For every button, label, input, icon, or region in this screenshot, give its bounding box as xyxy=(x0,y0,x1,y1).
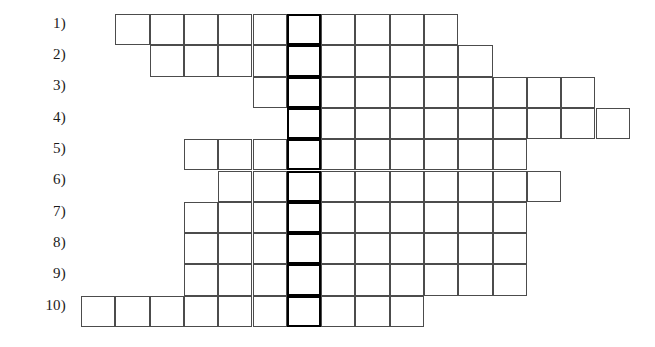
grid-cell-r9-c10[interactable] xyxy=(424,264,458,295)
grid-cell-r8-c11[interactable] xyxy=(458,233,492,264)
grid-cell-r6-c7[interactable] xyxy=(321,171,355,202)
grid-cell-r10-c8[interactable] xyxy=(355,296,389,327)
keyword-cell-r9[interactable] xyxy=(287,264,321,295)
grid-cell-r5-c8[interactable] xyxy=(355,139,389,170)
grid-cell-r1-c9[interactable] xyxy=(390,14,424,45)
grid-cell-r6-c4[interactable] xyxy=(218,171,252,202)
keyword-cell-r2[interactable] xyxy=(287,45,321,76)
keyword-cell-r8[interactable] xyxy=(287,233,321,264)
grid-cell-r4-c11[interactable] xyxy=(458,108,492,139)
grid-cell-r9-c5[interactable] xyxy=(253,264,287,295)
grid-cell-r6-c13[interactable] xyxy=(527,171,561,202)
keyword-cell-r3[interactable] xyxy=(287,77,321,108)
grid-cell-r7-c12[interactable] xyxy=(493,202,527,233)
grid-cell-r6-c5[interactable] xyxy=(253,171,287,202)
grid-cell-r2-c4[interactable] xyxy=(218,45,252,76)
grid-cell-r1-c8[interactable] xyxy=(355,14,389,45)
grid-cell-r3-c5[interactable] xyxy=(253,77,287,108)
grid-cell-r7-c5[interactable] xyxy=(253,202,287,233)
grid-cell-r7-c9[interactable] xyxy=(390,202,424,233)
grid-cell-r3-c10[interactable] xyxy=(424,77,458,108)
grid-cell-r6-c9[interactable] xyxy=(390,171,424,202)
grid-cell-r4-c14[interactable] xyxy=(561,108,595,139)
keyword-cell-r6[interactable] xyxy=(287,171,321,202)
grid-cell-r2-c11[interactable] xyxy=(458,45,492,76)
grid-cell-r5-c11[interactable] xyxy=(458,139,492,170)
grid-cell-r2-c5[interactable] xyxy=(253,45,287,76)
grid-cell-r4-c8[interactable] xyxy=(355,108,389,139)
grid-cell-r5-c9[interactable] xyxy=(390,139,424,170)
grid-cell-r1-c1[interactable] xyxy=(115,14,149,45)
grid-cell-r10-c0[interactable] xyxy=(81,296,115,327)
grid-cell-r2-c10[interactable] xyxy=(424,45,458,76)
grid-cell-r8-c8[interactable] xyxy=(355,233,389,264)
grid-cell-r5-c3[interactable] xyxy=(184,139,218,170)
grid-cell-r7-c3[interactable] xyxy=(184,202,218,233)
grid-cell-r6-c12[interactable] xyxy=(493,171,527,202)
grid-cell-r2-c3[interactable] xyxy=(184,45,218,76)
grid-cell-r2-c7[interactable] xyxy=(321,45,355,76)
grid-cell-r7-c7[interactable] xyxy=(321,202,355,233)
grid-cell-r10-c5[interactable] xyxy=(253,296,287,327)
grid-cell-r1-c7[interactable] xyxy=(321,14,355,45)
grid-cell-r10-c9[interactable] xyxy=(390,296,424,327)
grid-cell-r10-c1[interactable] xyxy=(115,296,149,327)
grid-cell-r8-c12[interactable] xyxy=(493,233,527,264)
grid-cell-r4-c9[interactable] xyxy=(390,108,424,139)
grid-cell-r4-c10[interactable] xyxy=(424,108,458,139)
grid-cell-r9-c3[interactable] xyxy=(184,264,218,295)
grid-cell-r6-c8[interactable] xyxy=(355,171,389,202)
grid-cell-r8-c10[interactable] xyxy=(424,233,458,264)
grid-cell-r3-c9[interactable] xyxy=(390,77,424,108)
grid-cell-r6-c11[interactable] xyxy=(458,171,492,202)
grid-cell-r3-c12[interactable] xyxy=(493,77,527,108)
grid-cell-r10-c4[interactable] xyxy=(218,296,252,327)
grid-cell-r6-c10[interactable] xyxy=(424,171,458,202)
grid-cell-r9-c9[interactable] xyxy=(390,264,424,295)
grid-cell-r2-c2[interactable] xyxy=(150,45,184,76)
grid-cell-r7-c11[interactable] xyxy=(458,202,492,233)
grid-cell-r5-c4[interactable] xyxy=(218,139,252,170)
keyword-cell-r5[interactable] xyxy=(287,139,321,170)
grid-cell-r3-c13[interactable] xyxy=(527,77,561,108)
grid-cell-r8-c4[interactable] xyxy=(218,233,252,264)
grid-cell-r4-c12[interactable] xyxy=(493,108,527,139)
grid-cell-r4-c15[interactable] xyxy=(596,108,630,139)
grid-cell-r8-c9[interactable] xyxy=(390,233,424,264)
grid-cell-r9-c4[interactable] xyxy=(218,264,252,295)
grid-cell-r3-c14[interactable] xyxy=(561,77,595,108)
grid-cell-r9-c12[interactable] xyxy=(493,264,527,295)
grid-cell-r5-c7[interactable] xyxy=(321,139,355,170)
grid-cell-r10-c7[interactable] xyxy=(321,296,355,327)
grid-cell-r1-c4[interactable] xyxy=(218,14,252,45)
grid-cell-r4-c13[interactable] xyxy=(527,108,561,139)
grid-cell-r3-c11[interactable] xyxy=(458,77,492,108)
grid-cell-r5-c10[interactable] xyxy=(424,139,458,170)
grid-cell-r2-c9[interactable] xyxy=(390,45,424,76)
grid-cell-r9-c7[interactable] xyxy=(321,264,355,295)
grid-cell-r8-c7[interactable] xyxy=(321,233,355,264)
grid-cell-r10-c3[interactable] xyxy=(184,296,218,327)
grid-cell-r8-c5[interactable] xyxy=(253,233,287,264)
grid-cell-r7-c4[interactable] xyxy=(218,202,252,233)
grid-cell-r10-c2[interactable] xyxy=(150,296,184,327)
grid-cell-r5-c12[interactable] xyxy=(493,139,527,170)
keyword-cell-r10[interactable] xyxy=(287,296,321,327)
grid-cell-r1-c10[interactable] xyxy=(424,14,458,45)
grid-cell-r2-c8[interactable] xyxy=(355,45,389,76)
grid-cell-r1-c3[interactable] xyxy=(184,14,218,45)
grid-cell-r1-c2[interactable] xyxy=(150,14,184,45)
keyword-cell-r7[interactable] xyxy=(287,202,321,233)
grid-cell-r5-c5[interactable] xyxy=(253,139,287,170)
grid-cell-r9-c11[interactable] xyxy=(458,264,492,295)
keyword-cell-r4[interactable] xyxy=(287,108,321,139)
grid-cell-r4-c7[interactable] xyxy=(321,108,355,139)
grid-cell-r7-c10[interactable] xyxy=(424,202,458,233)
grid-cell-r1-c5[interactable] xyxy=(253,14,287,45)
grid-cell-r3-c7[interactable] xyxy=(321,77,355,108)
grid-cell-r7-c8[interactable] xyxy=(355,202,389,233)
grid-cell-r3-c8[interactable] xyxy=(355,77,389,108)
keyword-cell-r1[interactable] xyxy=(287,14,321,45)
grid-cell-r8-c3[interactable] xyxy=(184,233,218,264)
grid-cell-r9-c8[interactable] xyxy=(355,264,389,295)
